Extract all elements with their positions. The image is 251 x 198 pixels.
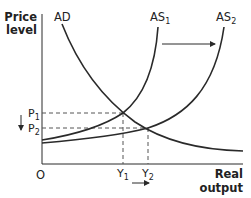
y2-label: Y2 [141,167,154,182]
ad-curve [62,24,243,151]
ad-label: AD [54,10,71,24]
y-axis-label-line1: Price [4,10,37,24]
x-axis-label-line2: output [199,181,243,195]
p2-label: P2 [28,122,40,137]
p1-label: P1 [28,107,40,122]
origin-label: O [36,168,45,182]
as1-curve [42,27,158,140]
as2-label: AS2 [216,10,236,26]
as1-label: AS1 [150,10,170,26]
y-axis-label-line2: level [6,23,37,37]
as-ad-diagram: Price level Real output O AD AS1 AS2 P1 … [0,0,251,198]
x-axis-label-line1: Real [215,167,243,181]
y1-label: Y1 [116,167,129,182]
